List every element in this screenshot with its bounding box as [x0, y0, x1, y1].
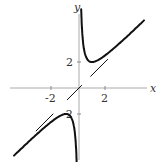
x-tick-label-neg2: -2: [45, 92, 56, 105]
y-tick-label-2: 2: [66, 56, 73, 69]
y-axis-label: y: [73, 1, 81, 14]
chart-canvas: x y -2 2 2 -2: [0, 0, 163, 162]
x-axis-label: x: [150, 82, 157, 95]
curve-branch: [81, 9, 144, 62]
x-tick-label-2: 2: [101, 92, 108, 105]
